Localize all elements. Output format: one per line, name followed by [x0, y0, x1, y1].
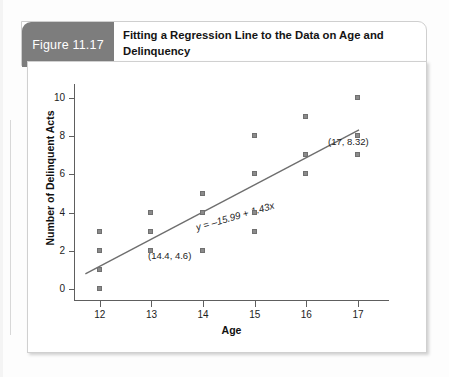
- plot-panel: y = –15.99 + 1.43x (14.4, 4.6) (17, 8.32…: [27, 61, 427, 353]
- figure-header: Figure 11.17 Fitting a Regression Line t…: [21, 21, 427, 66]
- y-axis-tick: [69, 251, 75, 252]
- x-axis-tick: [100, 301, 101, 307]
- data-point: [252, 133, 257, 138]
- y-axis-tick-label: 8: [43, 130, 65, 141]
- data-point: [148, 229, 153, 234]
- data-point: [355, 152, 360, 157]
- data-point: [252, 171, 257, 176]
- plot-area: y = –15.99 + 1.43x (14.4, 4.6) (17, 8.32…: [28, 62, 426, 352]
- page-root: Figure 11.17 Fitting a Regression Line t…: [0, 0, 449, 377]
- figure-box: Figure 11.17 Fitting a Regression Line t…: [21, 21, 427, 357]
- y-axis-tick-label: 0: [43, 283, 65, 294]
- data-point: [200, 248, 205, 253]
- data-point: [97, 229, 102, 234]
- y-axis-tick: [69, 213, 75, 214]
- x-axis-tick: [306, 301, 307, 307]
- y-axis-tick: [69, 136, 75, 137]
- x-axis-tick-label: 16: [294, 309, 318, 320]
- y-axis-tick-label: 4: [43, 207, 65, 218]
- data-point: [303, 152, 308, 157]
- data-point: [200, 210, 205, 215]
- annotation-point-label-2: (17, 8.32): [328, 136, 369, 147]
- data-point: [303, 114, 308, 119]
- data-point: [355, 95, 360, 100]
- annotation-point-label-1: (14.4, 4.6): [148, 250, 191, 261]
- y-axis-line: [74, 84, 75, 301]
- x-axis-tick: [255, 301, 256, 307]
- x-axis-tick-label: 13: [139, 309, 163, 320]
- data-point: [148, 210, 153, 215]
- data-point: [355, 133, 360, 138]
- y-axis-tick: [69, 98, 75, 99]
- y-axis-tick-label: 10: [43, 92, 65, 103]
- scan-line-artifact: [10, 120, 11, 335]
- data-point: [252, 210, 257, 215]
- x-axis-tick-label: 12: [88, 309, 112, 320]
- y-axis-tick: [69, 289, 75, 290]
- figure-title: Fitting a Regression Line to the Data on…: [123, 27, 413, 59]
- x-axis-line: [74, 300, 389, 301]
- x-axis-title: Age: [74, 324, 389, 336]
- data-point: [303, 171, 308, 176]
- y-axis-tick-label: 6: [43, 168, 65, 179]
- y-axis-tick: [69, 174, 75, 175]
- data-point: [97, 286, 102, 291]
- x-axis-tick-label: 15: [243, 309, 267, 320]
- x-axis-tick-label: 17: [346, 309, 370, 320]
- data-point: [148, 248, 153, 253]
- scan-edge-artifact: [0, 0, 3, 377]
- data-point: [97, 248, 102, 253]
- x-axis-tick: [203, 301, 204, 307]
- data-point: [252, 229, 257, 234]
- regression-equation-label: y = –15.99 + 1.43x: [194, 200, 275, 233]
- x-axis-tick: [151, 301, 152, 307]
- data-point: [200, 191, 205, 196]
- data-point: [97, 267, 102, 272]
- x-axis-tick: [358, 301, 359, 307]
- y-axis-tick-label: 2: [43, 245, 65, 256]
- x-axis-tick-label: 14: [191, 309, 215, 320]
